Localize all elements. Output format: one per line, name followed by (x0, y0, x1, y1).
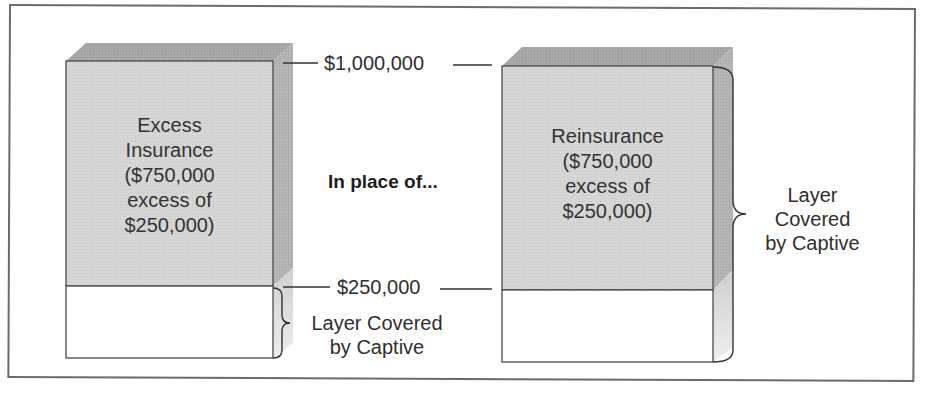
left-block-label-line: excess of (66, 188, 273, 213)
left-block-label-line: ($750,000 (66, 163, 273, 188)
right-block-retained-layer (502, 290, 713, 362)
left-block-label: Excess Insurance ($750,000 excess of $25… (66, 113, 273, 238)
left-block-top-face (66, 43, 293, 61)
right-captive-label-line: Covered (750, 207, 875, 231)
left-block-captive-layer (66, 286, 273, 358)
left-block-label-line: Insurance (66, 138, 273, 163)
right-block-label-line: excess of (502, 174, 713, 199)
left-block-side-face (273, 43, 293, 286)
right-captive-label-line: by Captive (750, 231, 875, 255)
left-block-label-line: Excess (66, 113, 273, 138)
right-block-side-face (713, 47, 733, 290)
left-captive-label-line: Layer Covered (292, 311, 462, 335)
left-block-label-line: $250,000) (66, 213, 273, 238)
right-block-label-line: ($750,000 (502, 149, 713, 174)
right-block-top-face (502, 47, 733, 66)
right-captive-label-line: Layer (750, 183, 875, 207)
top-level-label: $1,000,000 (324, 51, 424, 75)
left-captive-label-line: by Captive (292, 335, 462, 359)
right-block-label: Reinsurance ($750,000 excess of $250,000… (502, 124, 713, 224)
in-place-of-text: In place of... (328, 171, 438, 193)
left-captive-label: Layer Covered by Captive (292, 311, 462, 359)
right-block-label-line: $250,000) (502, 199, 713, 224)
right-captive-label: Layer Covered by Captive (750, 183, 875, 255)
bottom-level-label: $250,000 (337, 275, 420, 299)
right-block-label-line: Reinsurance (502, 124, 713, 149)
